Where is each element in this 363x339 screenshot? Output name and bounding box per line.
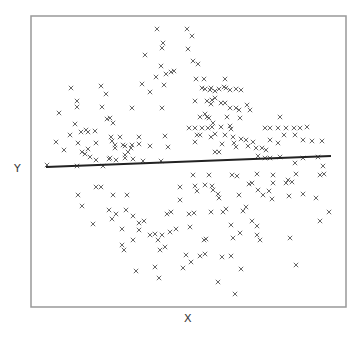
x-axis-label: X xyxy=(184,312,192,325)
y-axis-label: Y xyxy=(14,162,21,175)
scatter-chart xyxy=(0,0,363,339)
